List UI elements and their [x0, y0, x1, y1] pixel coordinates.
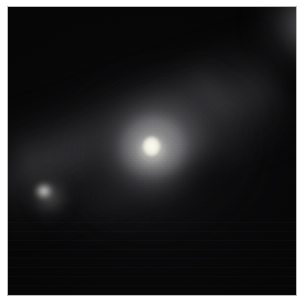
dark-lane: [143, 127, 259, 227]
astronomical-image-canvas: [8, 7, 296, 295]
detector-banding: [8, 220, 296, 295]
companion-object: [33, 181, 56, 203]
sky-background-layer: [8, 7, 296, 295]
background-glow-core: [158, 7, 296, 157]
background-glow-spur: [120, 7, 296, 184]
vignette: [8, 7, 296, 295]
companion-halo: [22, 170, 77, 225]
southwest-plume: [8, 136, 197, 282]
background-glow: [123, 7, 296, 197]
tidal-streak: [8, 23, 296, 250]
detector-noise: [8, 7, 296, 295]
galaxy-nucleus: [142, 136, 163, 161]
outer-halo: [8, 7, 296, 295]
galaxy-inner-disk: [104, 98, 202, 192]
image-frame: [7, 6, 297, 296]
south-plume: [71, 176, 158, 295]
nucleus-glow: [130, 127, 173, 170]
circumnuclear-ring: [126, 122, 178, 171]
image-page: [0, 0, 305, 305]
tidal-streak-core: [8, 56, 233, 205]
galaxy-envelope: [65, 56, 250, 234]
east-extension: [170, 62, 296, 211]
